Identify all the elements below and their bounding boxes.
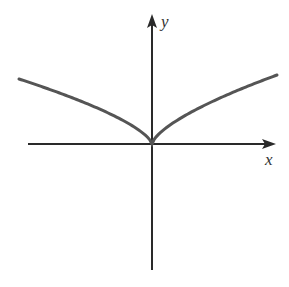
graph-canvas: y x	[0, 0, 289, 287]
y-axis-label: y	[159, 12, 169, 31]
x-axis-label: x	[264, 150, 273, 169]
function-curve	[19, 75, 277, 144]
